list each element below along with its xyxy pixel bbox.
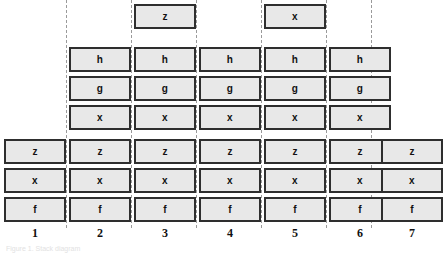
column-4: hgxzxf4 [199, 0, 261, 254]
column-divider-1 [66, 0, 67, 228]
box-f-bottom-col1[interactable]: f [4, 197, 66, 222]
box-g-middle-col5[interactable]: g [264, 76, 326, 101]
box-z-bottom-col3[interactable]: z [134, 139, 196, 164]
stack-bottom-column-4: zxf [199, 139, 261, 222]
column-label-5: 5 [264, 226, 326, 241]
box-f-bottom-col2[interactable]: f [69, 197, 131, 222]
box-h-middle-col3[interactable]: h [134, 47, 196, 72]
box-x-middle-col5[interactable]: x [264, 105, 326, 130]
column-label-7: 7 [381, 226, 443, 241]
box-f-bottom-col3[interactable]: f [134, 197, 196, 222]
column-divider-3 [196, 0, 197, 228]
column-divider-2 [131, 0, 132, 228]
box-g-middle-col3[interactable]: g [134, 76, 196, 101]
column-divider-5 [326, 0, 327, 228]
column-label-2: 2 [69, 226, 131, 241]
column-label-4: 4 [199, 226, 261, 241]
box-h-middle-col5[interactable]: h [264, 47, 326, 72]
stack-bottom-column-5: zxf [264, 139, 326, 222]
column-label-3: 3 [134, 226, 196, 241]
box-z-bottom-col2[interactable]: z [69, 139, 131, 164]
column-divider-4 [261, 0, 262, 228]
column-5: xhgxzxf5 [264, 0, 326, 254]
box-z-bottom-col1[interactable]: z [4, 139, 66, 164]
column-3: zhgxzxf3 [134, 0, 196, 254]
box-x-bottom-col5[interactable]: x [264, 168, 326, 193]
box-z-top-col3[interactable]: z [134, 4, 196, 29]
stack-diagram-figure: zxf1hgxzxf2zhgxzxf3hgxzxf4xhgxzxf5hgxzxf… [0, 0, 443, 254]
stack-bottom-column-3: zxf [134, 139, 196, 222]
box-f-bottom-col5[interactable]: f [264, 197, 326, 222]
box-z-bottom-col5[interactable]: z [264, 139, 326, 164]
column-1: zxf1 [4, 0, 66, 254]
stack-middle-column-5: hgx [264, 47, 326, 130]
figure-caption: Figure 1. Stack diagram [6, 245, 206, 253]
box-g-middle-col4[interactable]: g [199, 76, 261, 101]
box-x-bottom-col1[interactable]: x [4, 168, 66, 193]
stack-top-column-3: z [134, 4, 196, 29]
box-z-bottom-col7[interactable]: z [381, 139, 443, 164]
box-z-bottom-col4[interactable]: z [199, 139, 261, 164]
box-x-bottom-col4[interactable]: x [199, 168, 261, 193]
box-h-middle-col2[interactable]: h [69, 47, 131, 72]
stack-bottom-column-1: zxf [4, 139, 66, 222]
column-2: hgxzxf2 [69, 0, 131, 254]
stack-middle-column-2: hgx [69, 47, 131, 130]
box-x-bottom-col3[interactable]: x [134, 168, 196, 193]
box-x-bottom-col7[interactable]: x [381, 168, 443, 193]
box-x-top-col5[interactable]: x [264, 4, 326, 29]
stack-bottom-column-7: zxf [381, 139, 443, 222]
box-h-middle-col4[interactable]: h [199, 47, 261, 72]
box-x-middle-col3[interactable]: x [134, 105, 196, 130]
stack-top-column-5: x [264, 4, 326, 29]
box-x-middle-col2[interactable]: x [69, 105, 131, 130]
column-label-1: 1 [4, 226, 66, 241]
box-x-bottom-col2[interactable]: x [69, 168, 131, 193]
stack-middle-column-4: hgx [199, 47, 261, 130]
stack-bottom-column-2: zxf [69, 139, 131, 222]
box-x-middle-col4[interactable]: x [199, 105, 261, 130]
box-g-middle-col2[interactable]: g [69, 76, 131, 101]
column-7: zxf7 [381, 0, 443, 254]
stack-middle-column-3: hgx [134, 47, 196, 130]
box-f-bottom-col4[interactable]: f [199, 197, 261, 222]
box-f-bottom-col7[interactable]: f [381, 197, 443, 222]
